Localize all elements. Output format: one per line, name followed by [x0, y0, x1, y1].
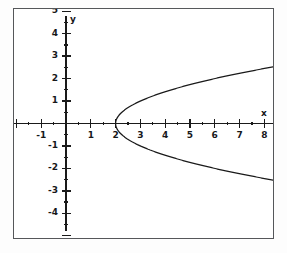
- y-axis-label: y: [70, 15, 76, 24]
- x-tick-label: 4: [151, 131, 179, 140]
- y-tick-label: -4: [28, 208, 58, 217]
- y-tick-label: 3: [28, 51, 58, 60]
- y-tick-label: 1: [28, 96, 58, 105]
- x-tick-label: -1: [27, 131, 55, 140]
- parabola-branch: [116, 67, 273, 124]
- y-tick-label: 2: [28, 74, 58, 83]
- parabola-figure: -112345678-4-3-2-112345 x y: [0, 0, 287, 253]
- plot-frame: -112345678-4-3-2-112345 x y: [13, 8, 274, 239]
- y-tick-label: -1: [28, 141, 58, 150]
- y-tick-label: -3: [28, 186, 58, 195]
- x-tick-label: 8: [250, 131, 274, 140]
- y-tick-label: 5: [28, 8, 58, 15]
- y-tick-label: 4: [28, 29, 58, 38]
- y-tick-label: -2: [28, 163, 58, 172]
- x-axis-label: x: [261, 109, 267, 118]
- axes-group: [14, 16, 273, 231]
- plot-canvas: [14, 9, 273, 238]
